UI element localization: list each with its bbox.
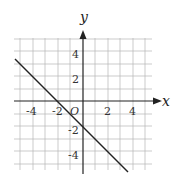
y-tick-neg2: -2 <box>68 124 79 137</box>
coordinate-plane: x y O -4 -2 2 4 4 2 -2 -4 <box>0 0 177 177</box>
y-tick-4: 4 <box>72 48 79 61</box>
x-tick-4: 4 <box>129 105 136 118</box>
x-axis <box>14 98 162 105</box>
y-axis <box>80 30 87 174</box>
y-tick-2: 2 <box>72 73 79 86</box>
x-tick-2: 2 <box>104 105 111 118</box>
x-tick-neg2: -2 <box>52 105 63 118</box>
y-axis-label: y <box>79 9 89 25</box>
origin-label: O <box>70 105 79 118</box>
x-axis-label: x <box>162 93 170 109</box>
x-tick-neg4: -4 <box>26 105 37 118</box>
y-axis-arrow-icon <box>80 30 87 39</box>
y-tick-neg4: -4 <box>68 149 79 162</box>
x-axis-arrow-icon <box>153 98 162 105</box>
